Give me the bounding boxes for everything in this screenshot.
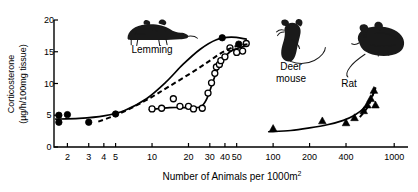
data-point <box>177 103 183 109</box>
x-tick-label: 3 <box>86 152 91 162</box>
data-point <box>212 70 218 76</box>
x-tick-label: 100 <box>266 152 281 162</box>
x-tick-label: 10 <box>147 152 157 162</box>
x-tick-label: 40 <box>220 152 230 162</box>
x-axis-title-exponent: 2 <box>298 170 302 177</box>
data-point <box>319 117 327 124</box>
data-point <box>190 106 196 112</box>
x-tick-labels: 234510203040501002004001000 <box>65 152 404 162</box>
y-axis-title-line2: (µg/h/100mg tissue) <box>18 44 28 124</box>
data-point <box>372 101 380 108</box>
series-curve <box>269 89 376 132</box>
data-point <box>199 105 205 111</box>
data-point <box>56 112 62 118</box>
data-point <box>269 125 277 132</box>
deer-mouse-illustration <box>277 19 326 63</box>
x-tick-label: 50 <box>232 152 242 162</box>
x-axis-title: Number of Animals per 1000m2 <box>163 170 302 182</box>
data-point <box>149 106 155 112</box>
annotation-rat: Rat <box>341 78 357 89</box>
data-point <box>209 80 215 86</box>
data-point <box>219 35 225 41</box>
series-curve <box>149 45 248 109</box>
y-tick-label: 10 <box>44 79 54 89</box>
data-point <box>205 90 211 96</box>
data-point <box>170 96 176 102</box>
data-series <box>56 35 380 132</box>
annotation-lemming: Lemming <box>131 44 172 55</box>
data-point <box>64 111 70 117</box>
corticosterone-vs-density-plot: 234510203040501002004001000 05101520 Cor… <box>0 0 418 192</box>
x-tick-label: 5 <box>113 152 118 162</box>
x-axis-title-base: Number of Animals per 1000m <box>163 171 298 182</box>
data-point <box>56 119 62 125</box>
annotation-deer-mouse-line2: mouse <box>276 73 306 84</box>
annotation-deer-mouse-line1: Deer <box>280 61 302 72</box>
y-tick-label: 0 <box>46 142 51 152</box>
series-rat <box>269 86 380 131</box>
x-tick-label: 1000 <box>384 152 404 162</box>
data-point <box>370 86 378 93</box>
y-tick-label: 15 <box>44 47 54 57</box>
chart-figure: 234510203040501002004001000 05101520 Cor… <box>0 0 418 192</box>
y-axis-title: Corticosterone (µg/h/100mg tissue) <box>6 44 28 124</box>
data-point <box>222 54 228 60</box>
x-tick-label: 400 <box>339 152 354 162</box>
data-point <box>234 49 240 55</box>
x-tick-label: 30 <box>205 152 215 162</box>
x-tick-label: 20 <box>183 152 193 162</box>
y-tick-labels: 05101520 <box>44 15 54 152</box>
x-axis-title-text: Number of Animals per 1000m2 <box>163 170 302 182</box>
rat-illustration <box>347 22 404 77</box>
data-point <box>240 48 246 54</box>
y-axis-title-line1: Corticosterone <box>6 55 16 114</box>
y-tick-label: 20 <box>44 15 54 25</box>
x-tick-label: 2 <box>65 152 70 162</box>
x-tick-label: 200 <box>302 152 317 162</box>
y-tick-label: 5 <box>46 110 51 120</box>
lemming-illustration <box>128 19 198 45</box>
x-tick-label: 4 <box>101 152 106 162</box>
data-point <box>159 105 165 111</box>
data-point <box>86 119 92 125</box>
